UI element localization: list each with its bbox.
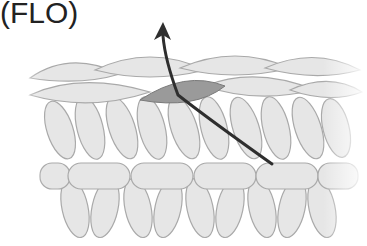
- crochet-flo-diagram: [0, 0, 367, 246]
